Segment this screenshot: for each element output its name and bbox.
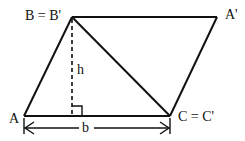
- label-a-prime: A': [225, 8, 238, 22]
- label-base-b: b: [82, 121, 89, 135]
- edge-Aprime-C: [170, 17, 217, 116]
- label-height-h: h: [77, 63, 84, 77]
- right-angle-marker: [72, 106, 82, 116]
- label-c-equals-c-prime: C = C': [178, 110, 214, 124]
- label-b-equals-b-prime: B = B': [25, 9, 61, 23]
- edge-A-B: [24, 17, 72, 116]
- parallelogram-diagram: B = B' A' A C = C' h b: [0, 0, 245, 141]
- diagonal-B-C: [72, 17, 170, 116]
- label-a: A: [9, 112, 19, 126]
